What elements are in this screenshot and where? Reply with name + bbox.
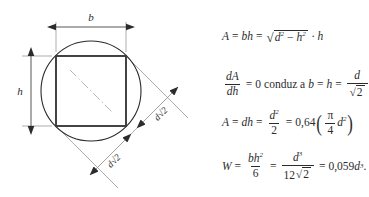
eq2-text: conduz a [264, 79, 305, 91]
dimension-joint [131, 128, 137, 134]
eq2-result-fraction: d √2 [347, 70, 368, 99]
eq1-lhs: A [222, 31, 229, 43]
eq2-derivative-fraction: dA dh [224, 71, 241, 97]
eq2-equals-b: = [317, 79, 324, 91]
dimension-h [22, 47, 52, 135]
label-b: b [88, 11, 94, 23]
eq4-fraction-2: d3 12√2 [282, 152, 314, 181]
eq3-four: 4 [325, 123, 335, 137]
eq3-fraction: d2 2 [268, 110, 281, 136]
eq4-f2-num-pow: 3 [299, 150, 303, 158]
arrow-b-right [126, 24, 135, 31]
eq3-frac-num: d2 [268, 110, 281, 123]
eq3-lhs: A [222, 117, 229, 129]
eq2-zero: 0 [255, 79, 261, 91]
equation-section-modulus: W = bh2 6 = d3 12√2 = 0,059 d3. [222, 152, 366, 181]
eq3-pi-fraction: π 4 [325, 110, 335, 136]
eq4-f2-num: d3 [291, 152, 304, 165]
eq1-bh: bh [242, 31, 254, 43]
eq4-period: . [364, 161, 367, 173]
eq4-f1-num-bh: bh [248, 152, 260, 164]
eq2-res-root: 2 [356, 85, 365, 99]
eq1-tail-h: h [318, 31, 324, 43]
equation-area-general: A = bh = √ d2−h2 · h [222, 30, 323, 44]
arrow-h-top [28, 47, 35, 56]
eq1-multiply-dot: · [311, 31, 315, 43]
eq3-frac-num-pow: 2 [275, 108, 279, 116]
paren-open-icon: ( [317, 114, 323, 133]
eq3-dh: dh [242, 117, 254, 129]
eq4-f2-den: 12√2 [282, 165, 314, 181]
eq4-f1-num-pow: 2 [260, 151, 264, 159]
label-diagonal-upper: d√2 [152, 105, 170, 123]
eq3-pi: π [325, 110, 335, 123]
eq1-equals-1: = [232, 31, 239, 43]
eq4-f1-den: 6 [251, 166, 261, 180]
equation-area-optimal: A = dh = d2 2 = 0,64 ( π 4 d2 ) [222, 110, 354, 136]
arrow-b-left [47, 24, 56, 31]
eq4-f2-radical: √2 [296, 167, 311, 181]
eq3-paren-var-group: d2 [337, 117, 346, 129]
figure-page: b h d√2 d√2 A = bh = √ d2−h2 · h dA dh [0, 0, 369, 197]
eq4-equals-1: = [235, 161, 242, 173]
eq3-equals-3: = [286, 117, 293, 129]
formula-list: A = bh = √ d2−h2 · h dA dh = 0 conduz a … [222, 0, 369, 197]
eq3-coefficient: 0,64 [295, 117, 315, 129]
eq4-result-coefficient: 0,059 [328, 161, 354, 173]
eq2-res-num: d [352, 70, 362, 83]
paren-close-icon: ) [348, 114, 354, 133]
eq1-radical: √ d2−h2 [267, 30, 308, 44]
eq4-equals-3: = [319, 161, 326, 173]
eq3-paren-var-pow: 2 [343, 115, 347, 123]
dimension-b [47, 22, 135, 52]
eq2-b: b [308, 79, 314, 91]
eq1-radicand: d2−h2 [274, 30, 308, 44]
eq2-res-den: √2 [347, 83, 368, 99]
eq4-equals-2: = [270, 161, 277, 173]
eq4-f1-num: bh2 [246, 153, 265, 166]
eq2-equals-h: = [335, 79, 342, 91]
eq3-frac-den: 2 [269, 123, 279, 137]
eq4-f2-root: 2 [302, 167, 311, 181]
arrow-h-bottom [28, 126, 35, 135]
eq1-equals-2: = [256, 31, 263, 43]
eq1-rad-h-pow: 2 [302, 30, 306, 38]
diagonal-extension-lower [56, 126, 118, 188]
eq3-equals-2: = [256, 117, 263, 129]
eq1-rad-d-pow: 2 [280, 30, 284, 38]
center-line [70, 70, 112, 112]
eq3-equals-1: = [232, 117, 239, 129]
eq2-equals: = [246, 79, 253, 91]
eq2-frac-num: dA [224, 71, 241, 84]
radical-sign-icon: √ [267, 31, 274, 44]
eq4-fraction-1: bh2 6 [246, 153, 265, 179]
eq4-lhs: W [222, 161, 232, 173]
label-diagonal-lower: d√2 [105, 152, 123, 170]
inscribed-square-diagram: b h d√2 d√2 [0, 0, 200, 197]
label-h: h [17, 85, 23, 97]
eq2-res-radical: √2 [350, 85, 365, 99]
diagram-svg: b h d√2 d√2 [0, 0, 200, 197]
diagonal-extension-upper [126, 56, 188, 118]
eq2-h: h [326, 79, 332, 91]
eq2-frac-den: dh [225, 84, 241, 98]
equation-derivative-condition: dA dh = 0 conduz a b = h = d √2 [222, 70, 369, 99]
eq3-parenthesized-group: ( π 4 d2 ) [315, 110, 354, 136]
eq4-f2-den-num: 12 [284, 168, 296, 180]
eq1-minus: − [287, 31, 294, 43]
